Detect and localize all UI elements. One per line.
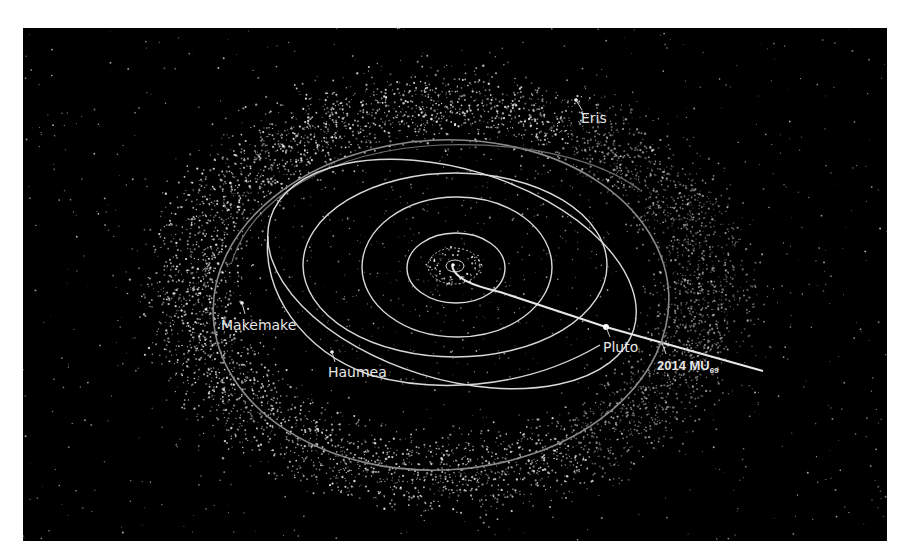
- particle: [270, 413, 272, 415]
- particle: [618, 477, 620, 479]
- particle: [590, 337, 591, 338]
- particle: [535, 103, 536, 104]
- particle: [281, 447, 282, 448]
- particle: [577, 539, 579, 541]
- particle: [513, 148, 515, 150]
- particle: [445, 105, 446, 106]
- particle: [708, 191, 710, 193]
- particle: [383, 452, 384, 453]
- particle: [630, 402, 631, 403]
- particle: [537, 434, 539, 436]
- particle: [536, 427, 538, 429]
- particle: [425, 503, 427, 505]
- particle: [263, 376, 264, 377]
- particle: [691, 325, 693, 327]
- particle: [635, 174, 637, 176]
- particle: [198, 484, 200, 486]
- particle: [523, 433, 525, 435]
- particle: [744, 328, 746, 330]
- particle: [145, 244, 147, 246]
- particle: [436, 269, 437, 270]
- particle: [556, 92, 557, 93]
- particle: [603, 162, 604, 163]
- particle: [662, 231, 664, 233]
- particle: [81, 178, 83, 180]
- particle: [245, 438, 247, 440]
- particle: [219, 298, 221, 300]
- particle: [493, 125, 495, 127]
- particle: [510, 109, 512, 111]
- particle: [641, 432, 642, 433]
- particle: [448, 444, 449, 445]
- particle: [507, 484, 509, 486]
- particle: [411, 119, 412, 120]
- particle: [435, 274, 437, 276]
- particle: [579, 482, 581, 484]
- particle: [599, 151, 600, 152]
- particle: [495, 453, 497, 455]
- particle: [479, 91, 481, 93]
- particle: [486, 448, 488, 450]
- particle: [225, 183, 226, 184]
- particle: [672, 166, 674, 168]
- particle: [560, 185, 561, 186]
- particle: [686, 241, 687, 242]
- particle: [561, 484, 563, 486]
- particle: [332, 235, 334, 237]
- particle: [701, 288, 702, 289]
- particle: [250, 180, 251, 181]
- particle: [657, 292, 659, 294]
- particle: [440, 121, 441, 122]
- particle: [337, 445, 339, 447]
- particle: [188, 399, 189, 400]
- particle: [592, 222, 593, 223]
- particle: [692, 311, 694, 313]
- particle: [190, 256, 191, 257]
- particle: [613, 464, 615, 466]
- particle: [412, 122, 414, 124]
- particle: [702, 250, 704, 252]
- particle: [547, 171, 549, 173]
- particle: [660, 322, 661, 323]
- particle: [684, 418, 685, 419]
- particle: [463, 457, 464, 458]
- particle: [430, 108, 432, 110]
- particle: [399, 476, 400, 477]
- particle: [855, 433, 856, 434]
- particle: [361, 141, 363, 143]
- particle: [685, 327, 686, 328]
- particle: [223, 199, 224, 200]
- particle: [353, 170, 355, 172]
- particle: [497, 86, 499, 88]
- particle: [432, 463, 433, 464]
- particle: [403, 459, 404, 460]
- particle: [551, 422, 553, 424]
- particle: [436, 265, 438, 267]
- particle: [685, 291, 687, 293]
- particle: [243, 159, 245, 161]
- particle: [547, 121, 549, 123]
- particle: [725, 308, 727, 310]
- particle: [483, 81, 485, 83]
- particle: [345, 99, 346, 100]
- particle: [415, 131, 417, 133]
- particle: [398, 130, 399, 131]
- particle: [204, 363, 205, 364]
- particle: [328, 124, 329, 125]
- particle: [308, 128, 309, 129]
- particle: [691, 217, 693, 219]
- particle: [690, 354, 691, 355]
- particle: [549, 128, 551, 130]
- particle: [335, 477, 337, 479]
- particle: [536, 133, 538, 135]
- particle: [637, 201, 639, 203]
- particle: [418, 490, 419, 491]
- particle: [187, 240, 189, 242]
- particle: [470, 480, 472, 482]
- particle: [414, 117, 415, 118]
- particle: [468, 485, 469, 486]
- particle: [500, 170, 502, 172]
- particle: [643, 363, 644, 364]
- particle: [515, 492, 517, 494]
- particle: [661, 201, 662, 202]
